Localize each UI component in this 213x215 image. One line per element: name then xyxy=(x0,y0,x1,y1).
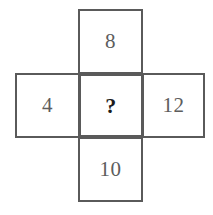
puzzle-cell-center: ? xyxy=(79,74,143,137)
puzzle-cell-top: 8 xyxy=(78,9,143,74)
puzzle-cell-right-value: 12 xyxy=(163,95,185,116)
puzzle-cell-bottom-value: 10 xyxy=(100,159,122,180)
puzzle-cell-left-value: 4 xyxy=(42,95,53,116)
cross-number-puzzle-figure: 8 4 ? 12 10 xyxy=(0,0,213,215)
puzzle-cell-left: 4 xyxy=(15,73,80,138)
puzzle-cell-center-value: ? xyxy=(105,95,117,117)
puzzle-cell-bottom: 10 xyxy=(78,137,143,202)
puzzle-cell-right: 12 xyxy=(142,73,205,138)
puzzle-cell-top-value: 8 xyxy=(105,31,116,52)
